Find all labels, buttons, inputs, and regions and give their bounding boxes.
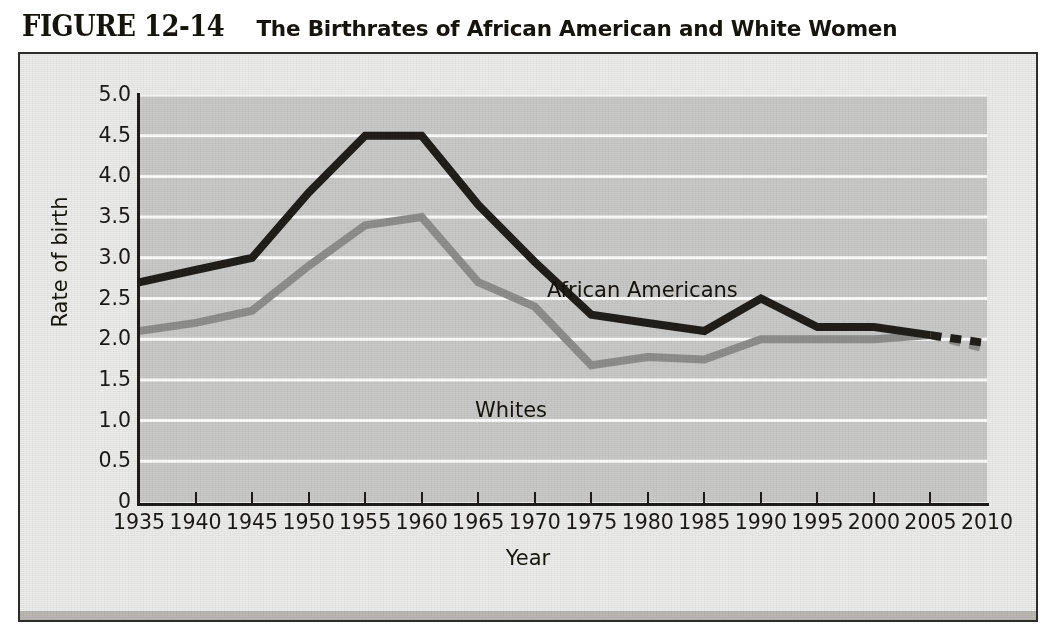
y-axis-line <box>137 93 140 506</box>
y-tick-label: 1.0 <box>77 408 131 432</box>
y-tick-label: 0.5 <box>77 448 131 472</box>
x-tick-mark <box>364 492 366 503</box>
series-projection-african-americans <box>930 335 987 343</box>
x-tick-mark <box>251 492 253 503</box>
y-tick-label: 2.5 <box>77 286 131 310</box>
figure-caption: The Birthrates of African American and W… <box>256 16 897 41</box>
x-tick-mark <box>590 492 592 503</box>
x-axis-line <box>137 503 989 506</box>
x-tick-mark <box>647 492 649 503</box>
x-tick-mark <box>760 492 762 503</box>
x-tick-mark <box>195 492 197 503</box>
y-tick-label: 4.0 <box>77 163 131 187</box>
y-tick-label: 1.5 <box>77 367 131 391</box>
figure-title: FIGURE 12-14 The Birthrates of African A… <box>22 8 1022 48</box>
y-tick-label: 3.5 <box>77 204 131 228</box>
series-line-whites <box>139 217 930 365</box>
x-tick-mark <box>873 492 875 503</box>
y-tick-label: 4.5 <box>77 123 131 147</box>
y-tick-label: 5.0 <box>77 82 131 106</box>
x-tick-mark <box>421 492 423 503</box>
x-tick-mark <box>929 492 931 503</box>
x-tick-mark <box>308 492 310 503</box>
x-axis-title: Year <box>20 546 1036 570</box>
figure-panel: 5.04.54.03.53.02.52.01.51.00.50 19351940… <box>18 52 1038 622</box>
x-tick-label: 2010 <box>952 510 1022 534</box>
x-tick-mark <box>477 492 479 503</box>
series-label-african-americans: African Americans <box>547 278 738 302</box>
y-axis-tick-labels: 5.04.54.03.53.02.52.01.51.00.50 <box>26 54 131 574</box>
figure-number: FIGURE 12-14 <box>22 8 224 43</box>
y-tick-label: 3.0 <box>77 245 131 269</box>
x-axis-tick-labels: 1935194019451950195519601965197019751980… <box>20 510 1036 544</box>
x-tick-mark <box>703 492 705 503</box>
series-layer <box>139 136 987 366</box>
y-axis-title: Rate of birth <box>48 182 72 342</box>
y-tick-label: 2.0 <box>77 326 131 350</box>
x-tick-mark <box>534 492 536 503</box>
x-tick-mark <box>816 492 818 503</box>
series-label-whites: Whites <box>475 398 547 422</box>
